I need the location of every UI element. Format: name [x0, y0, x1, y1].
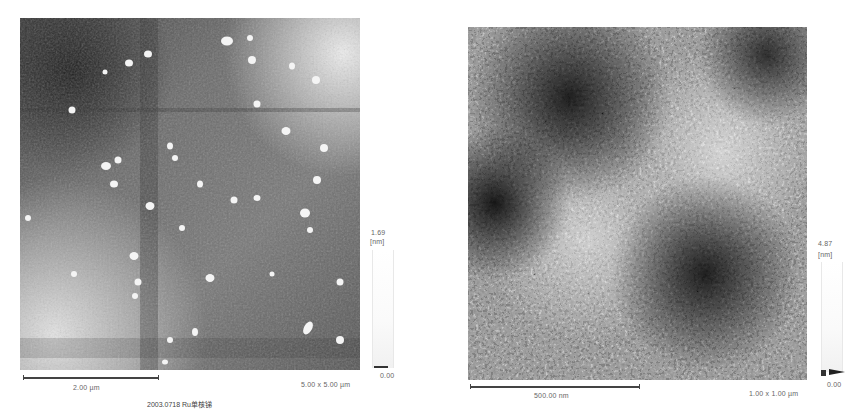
colorbar-pointer-right [829, 367, 845, 377]
figure-caption: 2003.0718 Ru单核锑 [147, 399, 212, 409]
scale-bar-label-right: 500.00 nm [534, 392, 569, 399]
scale-bar-label-left: 2.00 µm [73, 384, 100, 391]
scan-size-left: 5.00 x 5.00 µm [301, 381, 350, 388]
colorbar-marker-left [374, 366, 388, 368]
colorbar-max-right: 4.87 [818, 240, 832, 247]
scan-size-right: 1.00 x 1.00 µm [749, 390, 798, 397]
colorbar-min-right: 0.00 [827, 381, 841, 388]
scale-bar-right [470, 386, 640, 388]
colorbar-right [821, 262, 843, 372]
colorbar-max-left: 1.69 [371, 229, 385, 236]
scale-bar-left [23, 377, 159, 379]
colorbar-left [372, 250, 394, 368]
colorbar-unit-left: [nm] [370, 238, 384, 245]
colorbar-unit-right: [nm] [818, 251, 832, 258]
colorbar-marker-right [821, 370, 826, 376]
colorbar-min-left: 0.00 [380, 372, 394, 379]
afm-image-left [20, 18, 360, 370]
afm-image-right [468, 27, 807, 380]
